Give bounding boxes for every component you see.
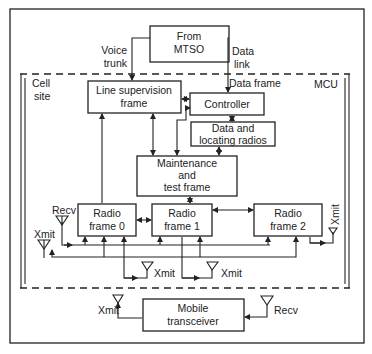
xmit-bottom2-label: Xmit (221, 267, 242, 279)
svg-text:Line supervision: Line supervision (96, 84, 172, 96)
xmit-right-label: Xmit (329, 204, 341, 225)
svg-text:and: and (178, 169, 196, 181)
svg-text:Radio: Radio (274, 207, 302, 219)
svg-text:transceiver: transceiver (167, 315, 219, 327)
recv-left-label: Recv (52, 204, 77, 216)
mtso-block: From MTSO (150, 26, 229, 62)
svg-text:MTSO: MTSO (174, 43, 204, 55)
svg-text:From: From (177, 30, 202, 42)
svg-text:test frame: test frame (164, 181, 211, 193)
svg-text:Radio: Radio (168, 207, 196, 219)
svg-text:Mobile: Mobile (178, 302, 209, 314)
svg-text:locating radios: locating radios (199, 134, 267, 146)
cell-site-label: Cell (32, 77, 50, 89)
cellular-system-diagram: Cell site MCU Data frame From MTSO Voice… (0, 0, 372, 354)
svg-text:frame 1: frame 1 (164, 220, 200, 232)
radio-frame-2-block: Radio frame 2 (254, 204, 322, 236)
svg-text:Maintenance: Maintenance (157, 157, 217, 169)
maintenance-block: Maintenance and test frame (137, 156, 237, 196)
data-link-label: Data (232, 45, 254, 57)
xmit-left-label: Xmit (34, 228, 55, 240)
mobile-recv-label: Recv (274, 304, 299, 316)
svg-text:Radio: Radio (93, 207, 121, 219)
svg-text:Controller: Controller (204, 98, 250, 110)
mobile-transceiver-block: Mobile transceiver (143, 299, 244, 331)
voice-trunk-label: Voice (101, 44, 127, 56)
data-frame-label: Data frame (229, 77, 281, 89)
xmit-bottom1-label: Xmit (154, 267, 175, 279)
data-link-label-2: link (234, 58, 251, 70)
svg-text:frame 0: frame 0 (89, 220, 125, 232)
mobile-xmit-label: Xmit (98, 304, 119, 316)
voice-trunk-label-2: trunk (104, 57, 128, 69)
data-locating-block: Data and locating radios (191, 122, 275, 146)
cell-site-label-2: site (34, 90, 51, 102)
svg-text:frame 2: frame 2 (270, 220, 306, 232)
radio-frame-1-block: Radio frame 1 (152, 204, 212, 236)
line-supervision-block: Line supervision frame (88, 81, 181, 113)
svg-text:frame: frame (121, 97, 148, 109)
radio-frame-0-block: Radio frame 0 (78, 204, 136, 236)
svg-text:Data and: Data and (212, 122, 255, 134)
mcu-label: MCU (314, 78, 338, 90)
controller-block: Controller (190, 93, 264, 115)
